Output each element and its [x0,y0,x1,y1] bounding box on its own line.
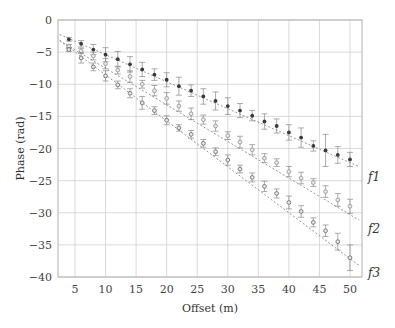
data-point-f2 [90,52,96,60]
y-tick-label: −10 [29,78,52,91]
data-point-f2 [176,101,182,111]
x-tick-label: 30 [221,283,235,296]
data-point-f1 [347,152,353,166]
phase-offset-chart: 5101520253035404550 0−5−10−15−20−25−30−3… [0,0,395,328]
data-point-f2 [213,121,219,131]
data-point-f1 [237,104,243,118]
data-point-f3 [90,63,96,71]
x-tick-label: 40 [282,283,296,296]
data-point-f2 [188,108,194,120]
y-tick-label: −25 [29,175,52,188]
x-tick-label: 35 [251,283,265,296]
y-axis-label: Phase (rad) [14,116,27,180]
data-points [66,37,353,270]
data-point-f3 [188,131,194,139]
data-point-f1 [298,128,304,147]
series-label-f3: f3 [367,266,380,280]
data-point-f2 [286,166,292,176]
data-point-f3 [78,53,84,63]
data-point-f1 [151,69,157,81]
data-point-f3 [286,196,292,209]
data-point-f3 [200,140,206,148]
series-label-f1: f1 [367,170,380,184]
data-point-f1 [335,147,341,164]
data-point-f2 [115,66,121,74]
data-point-f2 [261,154,267,163]
data-point-f3 [261,181,267,191]
y-tick-label: 0 [45,14,52,27]
data-point-f3 [323,225,329,237]
data-point-f1 [139,62,145,76]
x-axis-label: Offset (m) [182,302,238,315]
data-point-f3 [237,165,243,173]
data-point-f1 [274,119,280,133]
data-point-f3 [176,125,182,131]
y-tick-label: −20 [29,143,52,156]
x-tick-label: 10 [99,283,113,296]
x-tick-label: 50 [343,283,357,296]
data-point-f3 [164,116,170,125]
data-point-f1 [310,141,316,151]
data-point-f2 [139,80,145,88]
y-tick-label: −40 [29,271,52,284]
data-point-f2 [335,193,341,206]
data-point-f3 [298,206,304,218]
series-label-f2: f2 [367,222,380,236]
data-point-f2 [127,71,133,83]
data-point-f1 [127,57,133,72]
data-point-f1 [225,98,231,115]
data-point-f1 [249,111,255,121]
data-point-f1 [164,73,170,87]
x-tick-label: 15 [129,283,143,296]
data-point-f2 [225,132,231,140]
data-point-f3 [310,218,316,227]
y-axis-ticks: 0−5−10−15−20−25−30−35−40 [29,14,52,284]
data-point-f2 [249,145,255,155]
data-point-f2 [151,86,157,96]
y-tick-label: −30 [29,207,52,220]
x-tick-label: 5 [72,283,79,296]
data-point-f1 [176,77,182,95]
data-point-f3 [103,71,109,81]
data-point-f1 [200,89,206,104]
data-point-f1 [213,92,219,110]
y-tick-label: −35 [29,239,52,252]
data-point-f2 [310,179,316,187]
data-point-f2 [323,186,329,198]
data-point-f2 [237,136,243,148]
data-point-f3 [225,155,231,165]
data-point-f3 [139,96,145,109]
data-point-f3 [274,189,280,198]
data-point-f3 [347,245,353,271]
data-point-f1 [286,125,292,140]
x-axis-ticks: 5101520253035404550 [72,283,358,296]
y-tick-label: −15 [29,110,52,123]
data-point-f3 [213,148,219,156]
x-tick-label: 45 [312,283,326,296]
data-point-f2 [347,199,353,213]
data-point-f3 [127,89,133,98]
x-tick-label: 20 [160,283,174,296]
data-point-f1 [78,41,84,47]
y-tick-label: −5 [36,46,52,59]
data-point-f2 [103,59,109,69]
data-point-f1 [188,85,194,97]
fit-line-f2 [60,41,359,220]
data-point-f2 [298,172,304,184]
data-point-f2 [164,93,170,105]
data-point-f2 [274,159,280,167]
x-tick-label: 25 [190,283,204,296]
